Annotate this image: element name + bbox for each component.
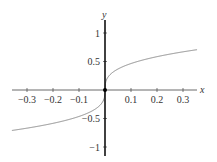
x-tick-label: 0.1 (125, 94, 138, 105)
x-tick-label: 0.3 (177, 94, 190, 105)
x-tick-label: −0.2 (44, 94, 62, 105)
cube-root-plot: −0.3−0.2−0.10.10.20.3 10.5−0.5−1 x y (0, 0, 217, 162)
x-tick-label: −0.3 (18, 94, 36, 105)
x-tick-label: 0.2 (151, 94, 164, 105)
y-tick-label: 1 (95, 28, 100, 39)
y-tick-label: −1 (89, 142, 100, 153)
y-axis-label: y (101, 9, 107, 20)
x-tick-label: −0.1 (70, 94, 88, 105)
y-tick-label: 0.5 (88, 56, 101, 67)
origin-point (103, 88, 107, 92)
x-axis-label: x (199, 84, 205, 95)
